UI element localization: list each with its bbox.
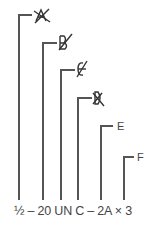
crossed-out-c-icon: [77, 61, 87, 77]
leader-line-d: [78, 98, 92, 200]
crossed-out-d-icon: [93, 92, 104, 106]
thread-callout-diagram: [0, 0, 155, 235]
crossed-out-a-icon: [34, 9, 50, 23]
crossed-out-markers: [34, 9, 104, 106]
leader-line-a: [19, 15, 32, 200]
leader-line-e: [101, 126, 113, 200]
label-f: F: [137, 151, 144, 163]
crossed-out-b-icon: [59, 34, 72, 50]
leader-lines: [19, 15, 134, 200]
label-e: E: [117, 120, 124, 132]
leader-line-b: [43, 43, 57, 200]
leader-line-f: [124, 157, 134, 200]
leader-line-c: [61, 70, 75, 200]
thread-callout-text: ½ – 20 UN C – 2A × 3: [14, 204, 132, 218]
